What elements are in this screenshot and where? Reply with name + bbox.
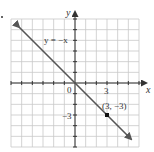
x-axis-label: x — [145, 84, 151, 95]
origin-label: 0 — [67, 85, 72, 95]
item-bullet — [1, 16, 3, 18]
line-equation-label: y = −x — [44, 35, 68, 45]
y-axis-label: y — [65, 7, 71, 18]
y-tick-label-neg3: −3 — [62, 111, 72, 121]
x-tick-label-3: 3 — [104, 86, 109, 96]
point-label: (3, −3) — [102, 101, 127, 111]
coordinate-plane: y x 0 3 −3 y = −x (3, −3) — [0, 0, 154, 152]
point-3-neg3 — [105, 113, 109, 117]
